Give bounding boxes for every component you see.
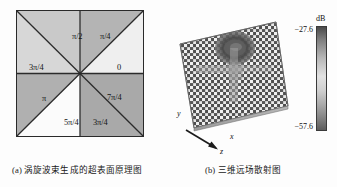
- sector-label-three-pi-over-4-lower: 3π/4: [93, 119, 108, 127]
- panel-a-metasurface: π/2 π/4 0 3π/4 π 5π/4 3π/4 7π/4 (a) 涡旋波束…: [0, 0, 170, 187]
- axis-label-z: z: [220, 147, 223, 156]
- axis-label-x: x: [230, 132, 234, 141]
- farfield-scattering-plot: y x z: [172, 8, 294, 156]
- sector-label-seven-pi-over-4: 7π/4: [107, 94, 122, 102]
- z-axis-arrow: [186, 130, 218, 150]
- sector-label-pi-over-4: π/4: [100, 33, 110, 41]
- colorbar: dB −27.6 −57.6: [297, 14, 337, 154]
- sector-label-five-pi-over-4: 5π/4: [64, 119, 79, 127]
- colorbar-tick-max: −27.6: [294, 25, 313, 34]
- caption-panel-b: (b) 三维远场散射图: [205, 163, 281, 175]
- colorbar-title: dB: [316, 14, 325, 23]
- scattering-plate: [180, 22, 288, 131]
- figure-root: π/2 π/4 0 3π/4 π 5π/4 3π/4 7π/4 (a) 涡旋波束…: [0, 0, 337, 187]
- sector-label-pi: π: [42, 95, 46, 103]
- axis-label-y: y: [177, 109, 181, 118]
- caption-panel-a: (a) 涡旋波束生成的超表面原理图: [12, 163, 142, 175]
- sector-divider-lines: [17, 11, 143, 136]
- panel-b-farfield: y x z dB −27.6 −57.6 (b) 三维远场散射图: [170, 0, 337, 187]
- sector-label-three-pi-over-4: 3π/4: [29, 64, 44, 72]
- metasurface-phase-diagram: π/2 π/4 0 3π/4 π 5π/4 3π/4 7π/4: [16, 10, 144, 137]
- sector-label-pi-over-2: π/2: [72, 33, 82, 41]
- colorbar-gradient: [316, 26, 327, 131]
- phase-sector-svg: [17, 11, 143, 136]
- colorbar-tick-min: −57.6: [294, 122, 313, 131]
- sector-label-zero: 0: [117, 64, 121, 72]
